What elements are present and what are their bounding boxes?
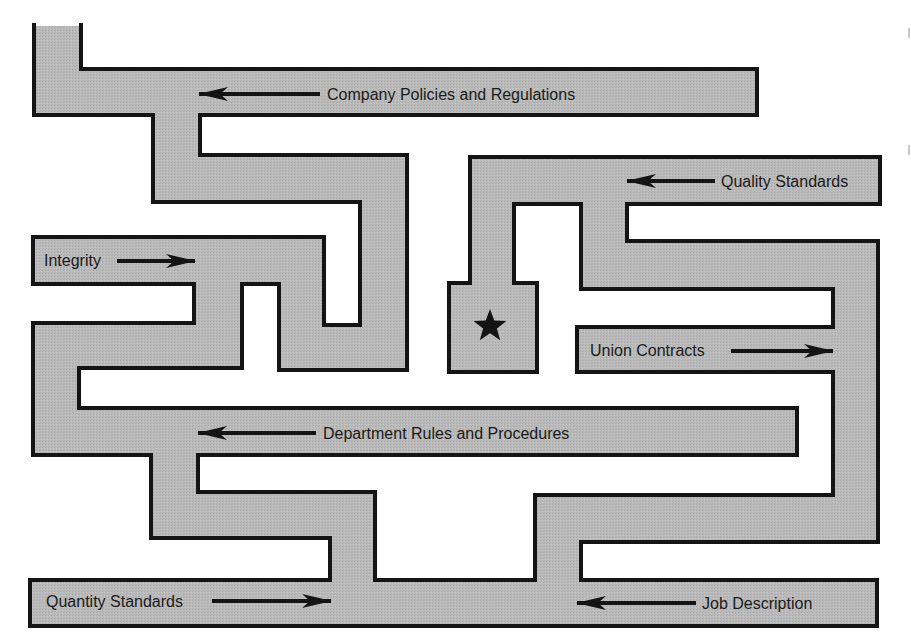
label-text: Job Description [702, 595, 812, 612]
label-text: Quality Standards [721, 173, 848, 190]
label-text: Quantity Standards [46, 593, 183, 610]
label-text: Department Rules and Procedures [323, 425, 569, 442]
label-text: Company Policies and Regulations [327, 86, 575, 103]
edge-scan-mark [908, 145, 910, 155]
maze-diagram: Company Policies and Regulations Quality… [0, 0, 911, 641]
label-text: Union Contracts [590, 342, 705, 359]
label-text: Integrity [44, 252, 101, 269]
edge-scan-mark [908, 28, 910, 38]
